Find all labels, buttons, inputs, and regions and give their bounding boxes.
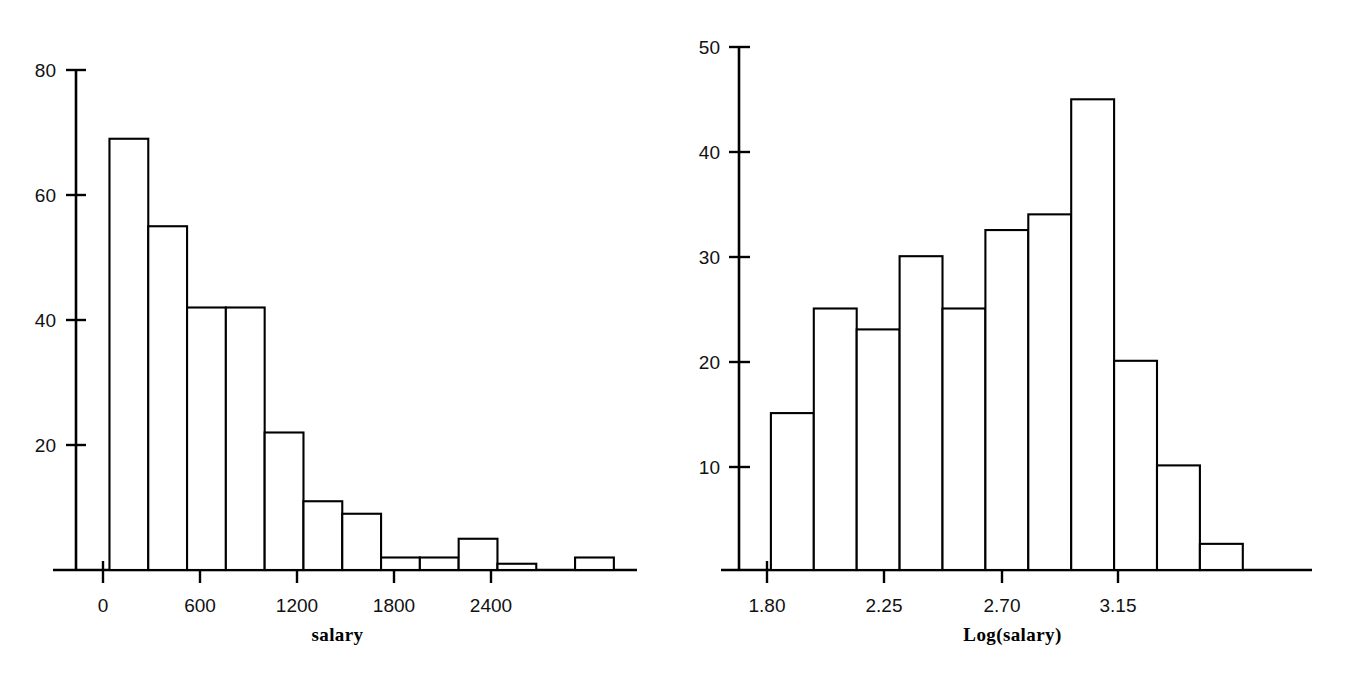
y-tick-label-40: 40 (35, 310, 56, 331)
histogram-bars-log-salary (771, 99, 1243, 570)
figure-page: 80 60 40 20 0 600 1200 1800 2400 salary (0, 0, 1350, 683)
histogram-bar (1028, 214, 1071, 570)
y-tick-label-20: 20 (699, 352, 720, 373)
x-tick-label-180: 1.80 (749, 595, 786, 616)
histogram-bar (985, 230, 1028, 570)
histogram-bar (771, 413, 814, 570)
histogram-bar (1071, 99, 1114, 570)
histogram-bar (265, 433, 304, 571)
y-tick-label-60: 60 (35, 185, 56, 206)
histogram-bar (497, 564, 536, 570)
x-tick-label-225: 2.25 (866, 595, 903, 616)
histogram-bar (187, 308, 226, 571)
histogram-bars-salary (109, 139, 613, 570)
histogram-panel-log-salary: 50 40 30 20 10 1.80 2.25 2.70 3.15 Log(s… (675, 0, 1350, 683)
histogram-bar (109, 139, 148, 570)
x-tick-label-315: 3.15 (1100, 595, 1137, 616)
histogram-bar (420, 558, 459, 571)
histogram-bar (814, 309, 857, 571)
salary-histogram-svg: 80 60 40 20 0 600 1200 1800 2400 (0, 0, 675, 620)
histogram-bar (148, 226, 187, 570)
histogram-panel-salary: 80 60 40 20 0 600 1200 1800 2400 salary (0, 0, 675, 683)
histogram-bar (575, 558, 614, 571)
histogram-bar (342, 514, 381, 570)
y-tick-label-10: 10 (699, 457, 720, 478)
x-tick-label-1200: 1200 (276, 595, 318, 616)
x-axis-title-log-salary: Log(salary) (675, 624, 1350, 646)
y-tick-label-30: 30 (699, 247, 720, 268)
histogram-bar (226, 308, 265, 571)
x-tick-label-1800: 1800 (373, 595, 415, 616)
x-tick-label-600: 600 (184, 595, 216, 616)
histogram-bar (459, 539, 498, 570)
x-tick-label-0: 0 (98, 595, 109, 616)
log-salary-histogram-svg: 50 40 30 20 10 1.80 2.25 2.70 3.15 (675, 0, 1350, 620)
histogram-bar (943, 309, 986, 571)
y-tick-label-50: 50 (699, 37, 720, 58)
histogram-bar (381, 558, 420, 571)
histogram-bar (303, 501, 342, 570)
histogram-bar (1114, 361, 1157, 570)
x-axis-title-salary: salary (0, 624, 675, 646)
y-tick-label-20: 20 (35, 435, 56, 456)
y-tick-label-40: 40 (699, 142, 720, 163)
x-tick-label-270: 2.70 (984, 595, 1021, 616)
histogram-bar (1157, 465, 1200, 570)
x-tick-label-2400: 2400 (470, 595, 512, 616)
histogram-bar (900, 256, 943, 570)
histogram-bar (857, 329, 900, 570)
y-tick-label-80: 80 (35, 60, 56, 81)
histogram-bar (1200, 544, 1243, 570)
